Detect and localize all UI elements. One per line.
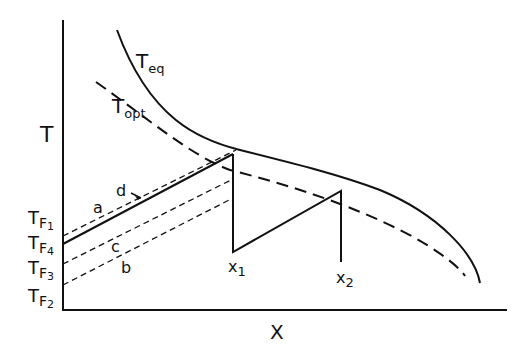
line-b-label: b — [121, 258, 131, 277]
x1-label: x1 — [228, 257, 246, 279]
teq-label: Teq — [135, 49, 164, 76]
line-d-tf4 — [63, 154, 233, 244]
line-b-tf2 — [63, 198, 233, 285]
reactor-temperature-conversion-diagram: Teq Topt T X TF1 TF4 TF3 TF2 a d c b x1 … — [0, 0, 528, 359]
line-d-label: d — [116, 181, 126, 200]
topt-label: Topt — [111, 94, 146, 121]
tf3-label: TF3 — [27, 257, 54, 283]
tf2-label: TF2 — [27, 285, 54, 311]
line-c-tf3 — [63, 179, 233, 264]
x-axis-label: X — [270, 320, 284, 344]
y-axis-label: T — [39, 122, 54, 147]
stage-path — [233, 154, 341, 262]
line-a-tf1 — [63, 150, 236, 236]
tf4-label: TF4 — [27, 232, 54, 258]
x2-label: x2 — [336, 268, 354, 290]
line-a-label: a — [93, 198, 103, 217]
line-c-label: c — [111, 237, 120, 256]
tf1-label: TF1 — [27, 207, 54, 233]
topt-curve — [96, 82, 465, 276]
